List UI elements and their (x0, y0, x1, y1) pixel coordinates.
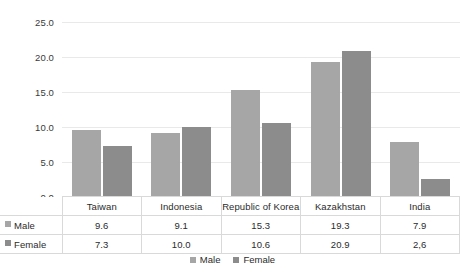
bar-group (301, 0, 381, 197)
bar-male (390, 142, 419, 197)
y-axis: 25.0 20.0 15.0 10.0 5.0 0.0 (0, 0, 58, 200)
column-header-taiwan: Taiwan (62, 197, 142, 216)
row-header-male: Male (0, 216, 62, 235)
table-row-male: Male 9.6 9.1 15.3 19.3 7.9 (0, 216, 460, 235)
y-tick-label: 5.0 (40, 157, 54, 168)
legend-item-male: Male (190, 254, 221, 265)
bar-female (342, 51, 371, 197)
legend-item-female: Female (233, 254, 275, 265)
y-tick-label: 25.0 (35, 17, 54, 28)
table-corner-cell (0, 197, 62, 216)
table-cell: 10.0 (142, 235, 222, 254)
data-table: Taiwan Indonesia Republic of Korea Kazak… (0, 196, 460, 254)
bar-group (62, 0, 142, 197)
bar-female (103, 146, 132, 197)
series-swatch-female-icon (5, 240, 11, 246)
bar-male (151, 133, 180, 197)
table-cell: 19.3 (301, 216, 381, 235)
table-cell: 9.1 (142, 216, 222, 235)
bar-male (311, 62, 340, 197)
bars-layer (62, 0, 460, 197)
bar-male (72, 130, 101, 197)
table-row-category-headers: Taiwan Indonesia Republic of Korea Kazak… (0, 197, 460, 216)
column-header-indonesia: Indonesia (142, 197, 222, 216)
legend-label: Female (243, 254, 275, 265)
bar-male (231, 90, 260, 197)
table-cell: 20.9 (301, 235, 381, 254)
table-cell: 7.3 (62, 235, 142, 254)
row-header-label: Male (14, 220, 35, 231)
bar-female (262, 123, 291, 197)
bar-group (142, 0, 222, 197)
table-cell: 2,6 (380, 235, 460, 254)
y-tick-label: 10.0 (35, 122, 54, 133)
y-tick-label: 20.0 (35, 52, 54, 63)
chart-legend: Male Female (0, 254, 465, 265)
legend-label: Male (200, 254, 221, 265)
table-cell: 7.9 (380, 216, 460, 235)
bar-group (380, 0, 460, 197)
bar-female (421, 179, 450, 197)
row-header-label: Female (14, 239, 46, 250)
table-cell: 15.3 (221, 216, 301, 235)
legend-swatch-female-icon (233, 257, 239, 263)
table-row-female: Female 7.3 10.0 10.6 20.9 2,6 (0, 235, 460, 254)
bar-group (221, 0, 301, 197)
table-cell: 10.6 (221, 235, 301, 254)
table-cell: 9.6 (62, 216, 142, 235)
bar-female (182, 127, 211, 197)
legend-swatch-male-icon (190, 257, 196, 263)
column-header-kazakhstan: Kazakhstan (301, 197, 381, 216)
series-swatch-male-icon (5, 221, 11, 227)
row-header-female: Female (0, 235, 62, 254)
column-header-republic-of-korea: Republic of Korea (221, 197, 301, 216)
plot-area: 25.0 20.0 15.0 10.0 5.0 0.0 (0, 0, 465, 200)
grouped-bar-chart: 25.0 20.0 15.0 10.0 5.0 0.0 (0, 0, 465, 275)
column-header-india: India (380, 197, 460, 216)
y-tick-label: 15.0 (35, 87, 54, 98)
